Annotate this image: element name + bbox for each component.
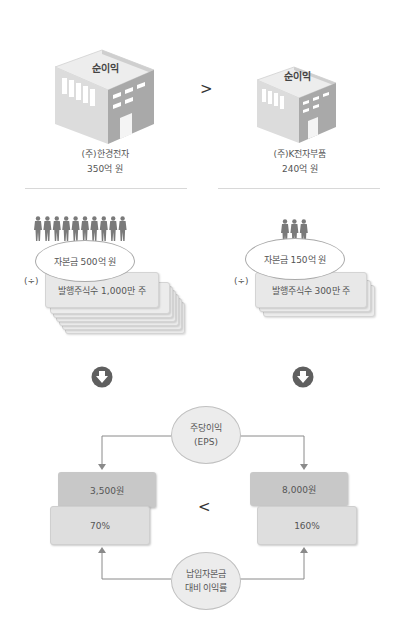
ratio-label-line2: 대비 이익률 xyxy=(185,581,228,595)
eps-value-left: 3,500원 xyxy=(90,484,124,497)
eps-box-right: 8,000원 xyxy=(250,472,348,506)
comparison-less-than: < xyxy=(198,498,211,516)
eps-label-line1: 주당이익 xyxy=(190,421,222,435)
ratio-box-right: 160% xyxy=(257,506,357,545)
ratio-value-left: 70% xyxy=(90,521,110,531)
ratio-box-left: 70% xyxy=(50,506,150,545)
ratio-label-line1: 납입자본금 xyxy=(186,567,226,581)
eps-ellipse: 주당이익 (EPS) xyxy=(171,406,241,464)
ratio-value-right: 160% xyxy=(294,521,320,531)
eps-box-left: 3,500원 xyxy=(58,472,156,508)
eps-value-right: 8,000원 xyxy=(282,483,316,496)
eps-label-line2: (EPS) xyxy=(194,435,218,449)
ratio-ellipse: 납입자본금 대비 이익률 xyxy=(171,552,241,610)
